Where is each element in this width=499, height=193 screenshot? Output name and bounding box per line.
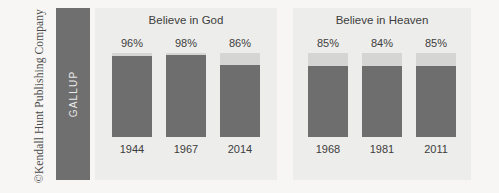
bar-fill — [362, 66, 402, 137]
bar-value-label: 86% — [229, 36, 251, 51]
bar-fill — [166, 55, 206, 137]
bar-track — [308, 53, 348, 137]
bar-category-label: 1944 — [120, 140, 144, 158]
chart-panel-believe-in-heaven: Believe in Heaven 85% 1968 84% 1981 85% — [293, 8, 471, 180]
chart-panel-believe-in-god: Believe in God 96% 1944 98% 1967 86% — [95, 8, 277, 180]
bar-group: 98% 1967 — [166, 36, 206, 158]
bar-fill — [112, 56, 152, 137]
bar-category-label: 1967 — [174, 140, 198, 158]
bar-fill — [220, 65, 260, 137]
bar-group: 86% 2014 — [220, 36, 260, 158]
bar-category-label: 1981 — [370, 140, 394, 158]
bar-track — [220, 53, 260, 137]
plot-area-believe-in-god: 96% 1944 98% 1967 86% 2014 — [95, 36, 277, 158]
bar-fill — [416, 66, 456, 137]
bar-group: 85% 1968 — [308, 36, 348, 158]
bar-group: 85% 2011 — [416, 36, 456, 158]
bar-track — [112, 53, 152, 137]
bar-fill — [308, 66, 348, 137]
bar-group: 96% 1944 — [112, 36, 152, 158]
copyright-text: ©Kendall Hunt Publishing Company — [33, 9, 45, 183]
gallup-brand-label: GALLUP — [68, 71, 79, 118]
plot-area-believe-in-heaven: 85% 1968 84% 1981 85% 2011 — [293, 36, 471, 158]
bar-value-label: 84% — [371, 36, 393, 51]
bar-category-label: 1968 — [316, 140, 340, 158]
bar-value-label: 85% — [425, 36, 447, 51]
bar-track — [362, 53, 402, 137]
bar-value-label: 98% — [175, 36, 197, 51]
bar-value-label: 96% — [121, 36, 143, 51]
bar-track — [416, 53, 456, 137]
chart-title-believe-in-heaven: Believe in Heaven — [293, 14, 471, 26]
bar-category-label: 2014 — [228, 140, 252, 158]
bar-track — [166, 53, 206, 137]
chart-title-believe-in-god: Believe in God — [95, 14, 277, 26]
gallup-belief-chart-figure: ©Kendall Hunt Publishing Company GALLUP … — [0, 0, 499, 193]
bar-group: 84% 1981 — [362, 36, 402, 158]
gallup-brand-block: GALLUP — [56, 8, 90, 180]
copyright-notice: ©Kendall Hunt Publishing Company — [30, 8, 48, 184]
bar-value-label: 85% — [317, 36, 339, 51]
bar-category-label: 2011 — [424, 140, 448, 158]
